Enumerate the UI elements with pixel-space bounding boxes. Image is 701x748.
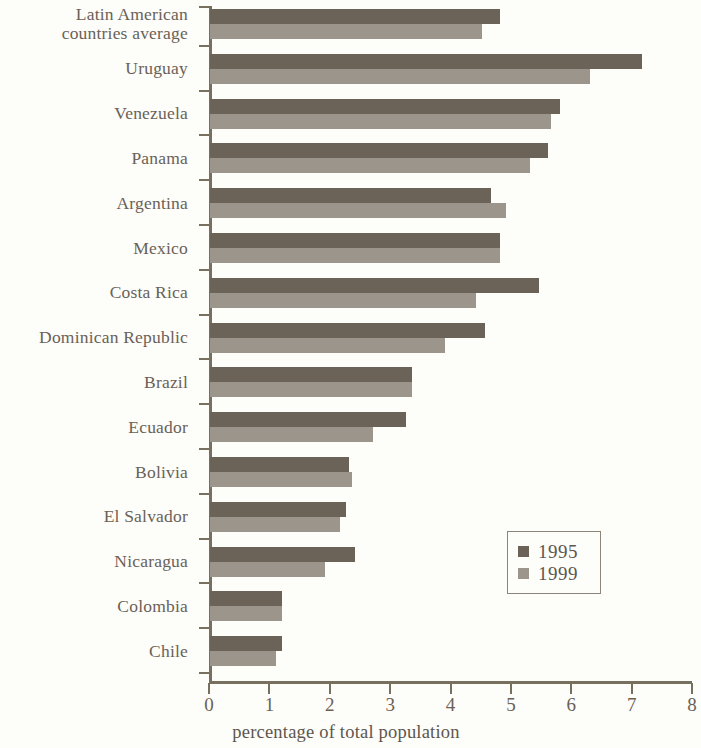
bar-1999 (210, 293, 476, 308)
x-axis-tick (329, 683, 331, 694)
bar-1999 (210, 114, 551, 129)
bar-1995 (210, 99, 560, 114)
bar-1999 (210, 158, 530, 173)
x-axis-tick-label: 3 (375, 694, 405, 716)
y-axis-tick (199, 448, 209, 450)
bar-1995 (210, 457, 349, 472)
x-axis-tick (389, 683, 391, 694)
bar-1995 (210, 9, 500, 24)
y-axis-tick (199, 538, 209, 540)
y-axis-tick (199, 314, 209, 316)
category-label: Ecuador (0, 418, 188, 437)
x-axis-title: percentage of total population (0, 722, 692, 743)
x-axis-tick (631, 683, 633, 694)
y-axis-tick (199, 627, 209, 629)
bar-1999 (210, 606, 282, 621)
legend-label-1995: 1995 (538, 542, 578, 561)
category-label: Mexico (0, 239, 188, 258)
category-label: Brazil (0, 373, 188, 392)
y-axis-tick (199, 269, 209, 271)
y-axis-tick (199, 403, 209, 405)
category-label: Venezuela (0, 104, 188, 123)
category-label: Uruguay (0, 59, 188, 78)
y-axis-tick (199, 358, 209, 360)
y-axis-tick (199, 672, 209, 674)
x-axis-tick (510, 683, 512, 694)
x-axis-tick (691, 683, 693, 694)
y-axis-tick (199, 582, 209, 584)
y-axis-tick (199, 179, 209, 181)
category-label: Panama (0, 149, 188, 168)
x-axis-tick-label: 6 (556, 694, 586, 716)
category-label: Argentina (0, 194, 188, 213)
category-label: Chile (0, 642, 188, 661)
bar-1995 (210, 323, 485, 338)
bar-1999 (210, 24, 482, 39)
y-axis-tick (199, 134, 209, 136)
x-axis-tick (268, 683, 270, 694)
x-axis-tick (450, 683, 452, 694)
bar-1999 (210, 382, 412, 397)
category-label: Costa Rica (0, 283, 188, 302)
legend-item-1999: 1999 (518, 563, 578, 583)
bar-1995 (210, 547, 355, 562)
x-axis-tick-label: 0 (194, 694, 224, 716)
x-axis-tick-label: 5 (496, 694, 526, 716)
x-axis-tick-label: 1 (254, 694, 284, 716)
category-label: Dominican Republic (0, 328, 188, 347)
x-axis-tick-label: 7 (617, 694, 647, 716)
category-label: El Salvador (0, 507, 188, 526)
plot-area (209, 6, 692, 681)
bar-1995 (210, 502, 346, 517)
y-axis-tick (199, 90, 209, 92)
bar-1995 (210, 412, 406, 427)
bar-1995 (210, 143, 548, 158)
y-axis-tick (199, 224, 209, 226)
legend: 1995 1999 (507, 531, 601, 594)
bar-1995 (210, 636, 282, 651)
bar-1995 (210, 233, 500, 248)
y-axis-tick (199, 45, 209, 47)
bar-1999 (210, 338, 445, 353)
bar-1995 (210, 188, 491, 203)
bar-1999 (210, 427, 373, 442)
bar-1995 (210, 278, 539, 293)
legend-swatch-1995 (518, 546, 529, 557)
legend-swatch-1999 (518, 568, 529, 579)
bar-1999 (210, 517, 340, 532)
category-axis-labels: Latin American countries averageUruguayV… (0, 0, 196, 681)
bar-1999 (210, 472, 352, 487)
bar-1995 (210, 54, 642, 69)
bar-1999 (210, 203, 506, 218)
x-axis-tick-label: 4 (436, 694, 466, 716)
x-axis-tick-label: 2 (315, 694, 345, 716)
category-label: Bolivia (0, 463, 188, 482)
bar-1999 (210, 248, 500, 263)
bar-1995 (210, 591, 282, 606)
x-axis-tick-label: 8 (677, 694, 701, 716)
category-label: Latin American countries average (0, 5, 188, 43)
y-axis-tick (199, 6, 209, 8)
legend-label-1999: 1999 (538, 564, 578, 583)
bar-1999 (210, 562, 325, 577)
bar-1999 (210, 651, 276, 666)
legend-item-1995: 1995 (518, 541, 578, 561)
x-axis-tick (570, 683, 572, 694)
bar-1995 (210, 367, 412, 382)
x-axis-tick (208, 683, 210, 694)
bar-1999 (210, 69, 590, 84)
y-axis-tick (199, 493, 209, 495)
category-label: Colombia (0, 597, 188, 616)
category-label: Nicaragua (0, 552, 188, 571)
